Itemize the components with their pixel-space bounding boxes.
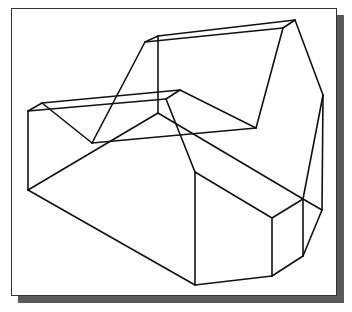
edge-B-C xyxy=(42,90,180,103)
edge-N-P xyxy=(195,276,272,285)
wireframe-drawing xyxy=(0,0,352,312)
edge-L-N xyxy=(28,190,195,285)
edge-I-Q xyxy=(158,113,303,199)
edge-R-T xyxy=(303,210,322,256)
edge-S-T xyxy=(322,95,323,210)
edge-K-H xyxy=(256,28,283,128)
edge-S-Q xyxy=(303,95,323,199)
edge-P-R xyxy=(272,256,303,276)
edge-Q-T xyxy=(303,199,322,210)
edge-I-L xyxy=(28,113,158,190)
edge-J-K xyxy=(92,128,256,143)
edge-O-Q xyxy=(272,199,303,218)
edge-C-K xyxy=(180,90,256,128)
edge-B-J xyxy=(42,103,92,143)
edge-G-S xyxy=(295,20,323,95)
edge-M-O xyxy=(195,172,272,218)
edge-E-J xyxy=(92,42,145,143)
